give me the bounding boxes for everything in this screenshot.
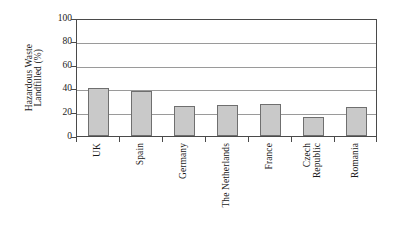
y-axis-tick-label: 0 [48, 132, 72, 142]
y-axis-tick-label: 20 [48, 108, 72, 118]
x-axis-category-label: CzechRepublic [301, 143, 325, 178]
y-axis-title-line-2: Landfilled (%) [34, 49, 44, 107]
bar [303, 117, 324, 136]
x-axis-tick-mark [162, 137, 163, 142]
chart-screenshot: Hazardous Waste Landfilled (%) 020406080… [0, 0, 395, 227]
x-axis-tick-mark [119, 137, 120, 142]
bar [260, 104, 281, 136]
x-axis-tick-mark [76, 137, 77, 142]
x-axis-category-label: Romania [349, 143, 362, 178]
bar-series [77, 20, 376, 136]
x-axis-tick-mark [334, 137, 335, 142]
x-axis-category-label: UK [91, 143, 104, 157]
y-axis-tick-label: 40 [48, 84, 72, 94]
x-axis-category-label: France [263, 143, 276, 169]
bar [88, 88, 109, 135]
bar [346, 107, 367, 135]
bar [131, 91, 152, 136]
x-axis-tick-mark [291, 137, 292, 142]
y-axis-tick-labels: 020406080100 [48, 13, 72, 143]
y-axis-tick-label: 60 [48, 61, 72, 71]
x-axis-category-label-line: Romania [351, 143, 361, 178]
y-axis-title: Hazardous Waste Landfilled (%) [18, 19, 50, 137]
x-axis-category-label-line: France [265, 143, 275, 169]
x-axis-category-label: The Netherlands [220, 143, 233, 208]
x-axis-category-label-line: UK [93, 143, 103, 157]
x-axis-tick-mark [248, 137, 249, 142]
plot-area [76, 19, 377, 137]
x-axis-tick-mark [205, 137, 206, 142]
y-axis-tick-label: 100 [48, 14, 72, 24]
x-axis-category-label-line: Czech [303, 143, 313, 167]
bar [174, 106, 195, 136]
x-axis-category-label-line: Germany [179, 143, 189, 179]
x-axis-category-label: Spain [134, 143, 147, 165]
x-axis-category-labels: UKSpainGermanyThe NetherlandsFranceCzech… [76, 143, 377, 225]
x-axis-category-label-line: Republic [313, 143, 323, 178]
x-axis-tick-mark [376, 137, 377, 142]
bar [217, 105, 238, 136]
x-axis-category-label-line: Spain [136, 143, 146, 165]
y-axis-tick-label: 80 [48, 37, 72, 47]
x-axis-category-label-line: The Netherlands [222, 143, 232, 208]
x-axis-tick-marks [76, 137, 377, 142]
x-axis-category-label: Germany [177, 143, 190, 179]
